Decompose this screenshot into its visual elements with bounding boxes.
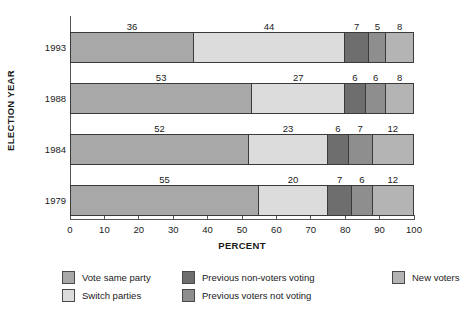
- legend-item: Previous non-voters voting: [182, 268, 392, 286]
- bar-segment-value-label: 7: [345, 20, 368, 33]
- bar-segment-value-label: 12: [373, 122, 413, 135]
- x-axis-tick-label: 50: [227, 224, 257, 235]
- legend-swatch: [392, 271, 405, 284]
- legend-swatch: [62, 289, 75, 302]
- x-axis-tick-label: 90: [365, 224, 395, 235]
- bar-segment-value-label: 12: [373, 173, 413, 186]
- y-axis-category-label: 1988: [26, 83, 66, 114]
- y-axis-category-label: 1993: [26, 32, 66, 63]
- x-axis-tick-label: 100: [399, 224, 429, 235]
- x-axis-tick-label: 0: [55, 224, 85, 235]
- bar-segment-value-label: 27: [252, 71, 344, 84]
- bar-segment: 6: [366, 83, 387, 114]
- bar-segment-value-label: 6: [366, 71, 386, 84]
- bar-segment-value-label: 8: [386, 71, 413, 84]
- legend-swatch: [182, 271, 195, 284]
- legend-item: Previous voters not voting: [182, 286, 392, 304]
- bar-segment-value-label: 20: [259, 173, 327, 186]
- legend-label: Vote same party: [82, 272, 151, 283]
- y-axis-title: ELECTION YEAR: [2, 0, 18, 220]
- bar-segment: 8: [386, 32, 414, 63]
- legend-label: Previous non-voters voting: [202, 272, 314, 283]
- bar-segment: 5: [369, 32, 386, 63]
- x-axis-title: PERCENT: [70, 240, 414, 251]
- bar-segment: 52: [70, 134, 249, 165]
- x-axis-tick-label: 30: [158, 224, 188, 235]
- legend-swatch: [62, 271, 75, 284]
- bar-segment: 36: [70, 32, 194, 63]
- bar-segment: 12: [373, 134, 414, 165]
- bar-segment-value-label: 6: [352, 173, 372, 186]
- bar-segment: 6: [352, 185, 373, 216]
- bar-row: 36447581993: [70, 32, 414, 63]
- y-axis-category-label: 1979: [26, 185, 66, 216]
- bar-row: 53276681988: [70, 83, 414, 114]
- x-axis-tick-label: 20: [124, 224, 154, 235]
- x-axis-tick-label: 10: [89, 224, 119, 235]
- bar-segment: 8: [386, 83, 414, 114]
- legend-item: Switch parties: [62, 286, 182, 304]
- x-axis-tick-label: 80: [330, 224, 360, 235]
- bar-segment-value-label: 8: [386, 20, 413, 33]
- bar-segment: 20: [259, 185, 328, 216]
- bar-segment: 6: [328, 134, 349, 165]
- bar-segment: 23: [249, 134, 328, 165]
- chart-legend: Vote same partyPrevious non-voters votin…: [62, 268, 432, 304]
- bar-segment: 12: [373, 185, 414, 216]
- x-axis-tick-label: 40: [193, 224, 223, 235]
- bar-segment-value-label: 23: [249, 122, 327, 135]
- y-axis-title-text: ELECTION YEAR: [5, 70, 16, 151]
- bar-row: 522367121984: [70, 134, 414, 165]
- bar-segment-value-label: 7: [349, 122, 372, 135]
- bar-segment: 6: [345, 83, 366, 114]
- bottom-caption-cropped: [6, 320, 436, 327]
- bar-segment-value-label: 44: [194, 20, 344, 33]
- bar-segment: 53: [70, 83, 252, 114]
- bar-segment-value-label: 6: [345, 71, 365, 84]
- bar-segment-value-label: 52: [71, 122, 248, 135]
- x-axis-tick-label: 60: [261, 224, 291, 235]
- legend-label: Previous voters not voting: [202, 290, 311, 301]
- bar-segment: 7: [349, 134, 373, 165]
- bar-segment-value-label: 5: [369, 20, 385, 33]
- bar-segment-value-label: 55: [71, 173, 258, 186]
- bar-segment: 27: [252, 83, 345, 114]
- legend-swatch: [182, 289, 195, 302]
- bar-segment-value-label: 7: [328, 173, 351, 186]
- y-axis-category-label: 1984: [26, 134, 66, 165]
- x-axis-tick-label: 70: [296, 224, 326, 235]
- bar-segment-value-label: 36: [71, 20, 193, 33]
- bar-row: 552076121979: [70, 185, 414, 216]
- bar-segment-value-label: 6: [328, 122, 348, 135]
- legend-item: Vote same party: [62, 268, 182, 286]
- bar-segment: 55: [70, 185, 259, 216]
- bar-segment: 44: [194, 32, 345, 63]
- bar-segment: 7: [345, 32, 369, 63]
- bar-segment: 7: [328, 185, 352, 216]
- legend-label: Switch parties: [82, 290, 141, 301]
- plot-area: 3644758199353276681988522367121984552076…: [70, 16, 414, 220]
- legend-item: New voters: [392, 268, 460, 286]
- legend-label: New voters: [412, 272, 460, 283]
- bar-segment-value-label: 53: [71, 71, 251, 84]
